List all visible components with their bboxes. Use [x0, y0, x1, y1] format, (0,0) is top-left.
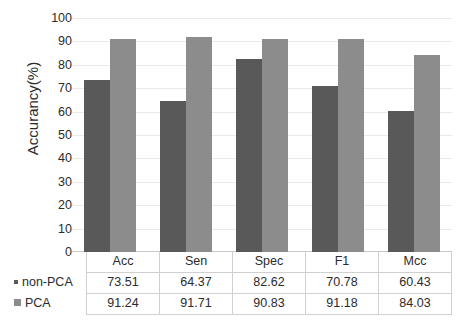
- bar-group: [300, 18, 376, 252]
- bar-pca-f1: [338, 39, 364, 252]
- table-cell-value: 84.03: [379, 294, 452, 315]
- y-axis-tick-label: 40: [40, 151, 72, 165]
- table-column-header: Spec: [233, 252, 306, 273]
- y-axis-tick-label: 90: [40, 34, 72, 48]
- bar-non-pca-mcc: [388, 111, 414, 252]
- y-axis-title: Accurancy(%): [24, 14, 41, 204]
- table-row: non-PCA73.5164.3782.6270.7860.43: [0, 273, 452, 294]
- table-header-row: AccSenSpecF1Mcc: [0, 252, 452, 273]
- y-axis-tick-label: 10: [40, 222, 72, 236]
- table-cell-value: 60.43: [379, 273, 452, 294]
- y-axis-tick-label: 60: [40, 105, 72, 119]
- bar-group: [376, 18, 452, 252]
- table-cell-value: 82.62: [233, 273, 306, 294]
- data-table-body: AccSenSpecF1Mccnon-PCA73.5164.3782.6270.…: [0, 252, 452, 315]
- bar-group: [148, 18, 224, 252]
- bar-group: [224, 18, 300, 252]
- table-column-header: Mcc: [379, 252, 452, 273]
- bar-pca-mcc: [414, 55, 440, 252]
- legend-entry: non-PCA: [0, 273, 87, 294]
- table-cell-value: 70.78: [306, 273, 379, 294]
- table-column-header: Sen: [160, 252, 233, 273]
- table-cell-value: 91.18: [306, 294, 379, 315]
- y-axis-tick-label: 70: [40, 81, 72, 95]
- table-cell-value: 90.83: [233, 294, 306, 315]
- legend-entry: PCA: [0, 294, 87, 315]
- table-cell-value: 91.71: [160, 294, 233, 315]
- bar-pca-spec: [262, 39, 288, 252]
- y-axis-tick-label: 30: [40, 175, 72, 189]
- table-cell-value: 91.24: [87, 294, 160, 315]
- legend-label: non-PCA: [22, 275, 73, 289]
- bar-group: [72, 18, 148, 252]
- table-column-header: Acc: [87, 252, 160, 273]
- bar-non-pca-spec: [236, 59, 262, 252]
- bar-non-pca-acc: [84, 80, 110, 252]
- bar-pca-acc: [110, 39, 136, 253]
- bar-non-pca-sen: [160, 101, 186, 252]
- bar-non-pca-f1: [312, 86, 338, 252]
- bar-pca-sen: [186, 37, 212, 252]
- y-axis-tick-label: 80: [40, 58, 72, 72]
- table-column-header: F1: [306, 252, 379, 273]
- table-row: PCA91.2491.7190.8391.1884.03: [0, 294, 452, 315]
- y-axis-tick-label: 50: [40, 128, 72, 142]
- y-axis-tick-label: 100: [40, 11, 72, 25]
- square-light-icon: [14, 299, 21, 306]
- table-cell-value: 73.51: [87, 273, 160, 294]
- legend-label: PCA: [25, 296, 51, 310]
- table-cell-value: 64.37: [160, 273, 233, 294]
- y-axis-tick-label: 20: [40, 198, 72, 212]
- bar-chart-figure: Accurancy(%) 1009080706050403020100 AccS…: [0, 0, 462, 321]
- data-table: AccSenSpecF1Mccnon-PCA73.5164.3782.6270.…: [0, 252, 452, 315]
- square-dark-icon: [14, 280, 18, 284]
- table-corner-cell: [0, 252, 87, 273]
- plot-area: [72, 18, 452, 252]
